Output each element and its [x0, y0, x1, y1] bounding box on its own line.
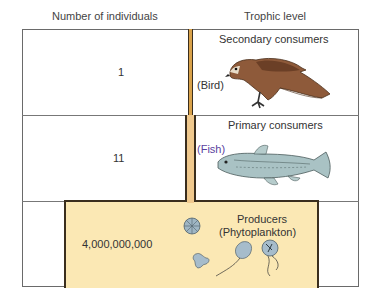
count-secondary-consumers: 1: [118, 66, 124, 78]
header-number-of-individuals: Number of individuals: [52, 10, 158, 22]
label-secondary-consumers: Secondary consumers: [219, 33, 328, 45]
fish-icon: [214, 140, 342, 190]
bar-primary-consumers: [185, 115, 196, 202]
count-producers: 4,000,000,000: [82, 238, 152, 250]
label-primary-consumers: Primary consumers: [228, 119, 323, 131]
count-primary-consumers: 11: [113, 152, 124, 164]
hawk-icon: [222, 50, 332, 110]
header-trophic-level: Trophic level: [244, 10, 306, 22]
bar-secondary-consumers: [188, 29, 193, 115]
organism-bird: (Bird): [197, 79, 224, 91]
phytoplankton-icon: [180, 212, 290, 284]
bar-bot-joint: [187, 199, 194, 203]
